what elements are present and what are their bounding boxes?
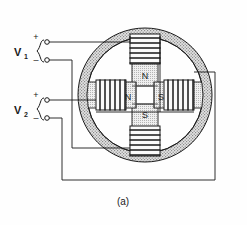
terminal-sign-v1-plus: + <box>33 32 38 42</box>
source-label-v1: V <box>14 46 22 58</box>
terminal-v1-plus[interactable] <box>45 40 50 45</box>
coil-right <box>164 80 194 110</box>
stator-winding-diagram: + – V 1 + – V 2 N N S S (a) <box>0 0 247 225</box>
terminal-v2-minus[interactable] <box>45 116 50 121</box>
coil-left <box>96 80 126 110</box>
source-label-v2: V <box>14 104 22 116</box>
pole-label-left: N <box>125 92 132 102</box>
terminal-v2-plus[interactable] <box>45 98 50 103</box>
terminal-sign-v2-plus: + <box>33 90 38 100</box>
source-sub-v2: 2 <box>24 111 28 118</box>
pole-label-top: N <box>142 71 149 81</box>
terminal-sign-v2-minus: – <box>33 113 38 123</box>
terminal-v1-minus[interactable] <box>45 58 50 63</box>
terminal-sign-v1-minus: – <box>33 55 38 65</box>
figure-caption: (a) <box>117 196 129 207</box>
source-sub-v1: 1 <box>24 53 28 60</box>
coil-top <box>130 34 160 64</box>
pole-label-right: S <box>158 92 164 102</box>
figure-root: + – V 1 + – V 2 N N S S (a) <box>0 0 247 225</box>
coil-bottom <box>130 126 160 156</box>
pole-label-bottom: S <box>142 110 148 120</box>
